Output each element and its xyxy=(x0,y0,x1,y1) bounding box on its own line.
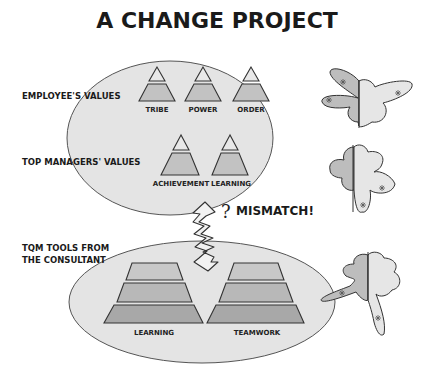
top-managers-values-label: TOP MANAGERS' VALUES xyxy=(22,156,140,169)
butterfly-icon-bottom xyxy=(321,252,400,335)
diagram-canvas: ? xyxy=(0,0,434,376)
tqm-tools-label-line2: THE CONSULTANT xyxy=(22,254,106,267)
mismatch-label: MISMATCH! xyxy=(236,204,314,218)
question-mark: ? xyxy=(221,201,231,222)
pyramid-label-tribe: TRIBE xyxy=(140,106,174,114)
butterfly-icon-middle xyxy=(330,145,395,212)
pyramid-label-learning-managers: LEARNING xyxy=(210,180,252,188)
pyramid-label-achievement: ACHIEVEMENT xyxy=(150,180,212,188)
pyramid-label-teamwork-tqm: TEAMWORK xyxy=(226,329,288,337)
pyramid-label-power: POWER xyxy=(184,106,222,114)
employees-values-label: EMPLOYEE'S VALUES xyxy=(22,90,121,103)
pyramid-label-learning-tqm: LEARNING xyxy=(124,329,184,337)
pyramid-label-order: ORDER xyxy=(232,106,270,114)
butterfly-icon-top xyxy=(322,69,412,128)
